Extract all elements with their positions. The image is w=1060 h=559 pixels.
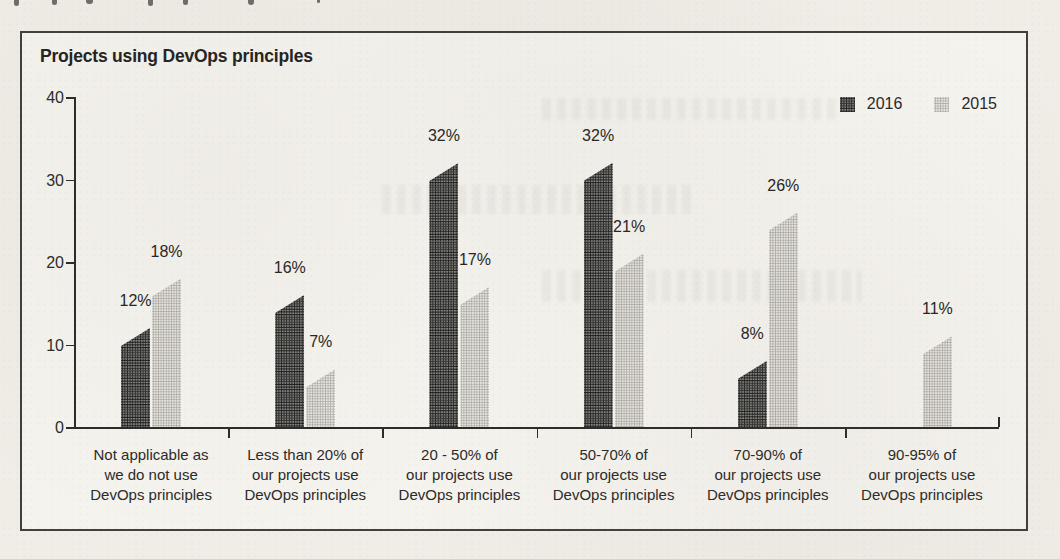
scan-artifact (317, 0, 320, 3)
bar-2016-4 (738, 361, 767, 427)
value-label-2016-1: 16% (255, 259, 325, 277)
value-label-2015-1: 7% (286, 333, 356, 351)
value-label-2015-3: 21% (594, 218, 664, 236)
value-label-2016-2: 32% (409, 127, 479, 145)
print-bleed-ghost (382, 185, 692, 214)
bar-2015-1 (306, 369, 335, 427)
value-label-2016-3: 32% (563, 127, 633, 145)
y-tick (66, 345, 74, 347)
legend-item-2016: 2016 (840, 95, 903, 113)
bar-2015-4 (769, 213, 798, 428)
x-tick (382, 429, 384, 438)
scan-artifact (14, 0, 19, 6)
scan-artifact (183, 0, 188, 5)
scan-artifact (52, 0, 57, 5)
x-tick (691, 429, 693, 438)
print-bleed-ghost (542, 98, 842, 120)
y-tick-label: 20 (32, 255, 64, 271)
legend-swatch-2015 (934, 97, 949, 112)
value-label-2015-2: 17% (440, 251, 510, 269)
scan-artifact (148, 0, 153, 6)
category-label-4: 70-90% of our projects use DevOps princi… (690, 445, 846, 505)
legend-label-2016: 2016 (867, 95, 903, 113)
y-tick (66, 427, 74, 429)
value-label-2015-0: 18% (132, 243, 202, 261)
x-tick (537, 429, 539, 438)
value-label-2015-4: 26% (748, 177, 818, 195)
category-label-0: Not applicable as we do not use DevOps p… (73, 445, 229, 505)
bar-2015-0 (152, 279, 181, 428)
x-tick (228, 429, 230, 438)
bar-2015-5 (923, 336, 952, 427)
category-label-1: Less than 20% of our projects use DevOps… (227, 445, 383, 505)
value-label-2015-5: 11% (902, 300, 972, 318)
legend-swatch-2016 (840, 97, 855, 112)
x-tick (845, 429, 847, 438)
x-axis-endcap (998, 417, 1000, 427)
y-tick (66, 97, 74, 99)
scanned-book-page: { "page": { "background_color": "#f0ede7… (0, 0, 1060, 559)
y-tick-label: 10 (32, 338, 64, 354)
chart-frame: Projects using DevOps principles 2016 20… (20, 31, 1028, 531)
bar-2015-2 (460, 287, 489, 427)
bar-2016-0 (121, 328, 150, 427)
bar-2015-3 (615, 254, 644, 427)
bar-2016-3 (584, 163, 613, 427)
legend-label-2015: 2015 (961, 95, 997, 113)
scan-artifact (86, 0, 93, 4)
y-tick (66, 262, 74, 264)
y-axis (74, 97, 76, 429)
category-label-5: 90-95% of our projects use DevOps princi… (844, 445, 1000, 505)
category-label-2: 20 - 50% of our projects use DevOps prin… (381, 445, 537, 505)
legend-item-2015: 2015 (934, 95, 997, 113)
category-label-3: 50-70% of our projects use DevOps princi… (536, 445, 692, 505)
bar-2016-1 (275, 295, 304, 427)
bar-2016-2 (429, 163, 458, 427)
y-tick-label: 40 (32, 90, 64, 106)
y-tick-label: 0 (32, 420, 64, 436)
chart-legend: 2016 2015 (840, 95, 997, 113)
scan-artifact (248, 0, 254, 5)
chart-title: Projects using DevOps principles (40, 46, 313, 67)
y-tick (66, 180, 74, 182)
y-tick-label: 30 (32, 173, 64, 189)
